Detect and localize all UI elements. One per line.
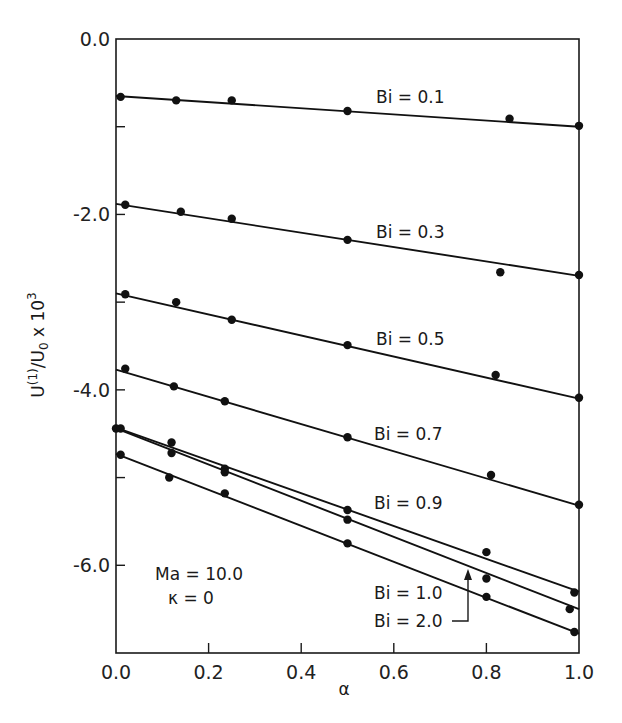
data-point	[228, 96, 236, 104]
data-point	[570, 628, 578, 636]
svg-text:U(1)/U0 x 103: U(1)/U0 x 103	[25, 292, 51, 397]
series-0-5	[116, 290, 583, 402]
y-label-sub: 0	[37, 342, 51, 350]
x-tick-label: 0.6	[379, 661, 409, 683]
data-point	[167, 438, 175, 446]
data-series	[112, 93, 583, 636]
data-point	[482, 593, 490, 601]
data-point	[575, 122, 583, 130]
series-label: Bi = 0.7	[374, 424, 442, 444]
data-point	[116, 424, 124, 432]
data-point	[170, 382, 178, 390]
data-point	[505, 115, 513, 123]
data-point	[482, 574, 490, 582]
data-point	[172, 96, 180, 104]
data-point	[482, 548, 490, 556]
y-label-sup: (1)	[26, 368, 40, 385]
series-label: Bi = 0.3	[376, 222, 444, 242]
data-point	[575, 271, 583, 279]
data-point	[228, 315, 236, 323]
y-tick-label: -6.0	[73, 554, 110, 576]
data-point	[491, 371, 499, 379]
series-0-1	[116, 93, 583, 130]
y-label-exp: 3	[25, 292, 39, 300]
x-tick-label: 0.0	[101, 661, 131, 683]
data-point	[167, 449, 175, 457]
data-point	[121, 290, 129, 298]
data-point	[165, 473, 173, 481]
y-tick-label: -2.0	[73, 203, 110, 225]
y-label-main: U	[28, 385, 48, 397]
annotation-ma: Ma = 10.0	[155, 564, 243, 584]
series-label: Bi = 0.1	[376, 87, 444, 107]
data-point	[121, 201, 129, 209]
series-labels: Bi = 0.1Bi = 0.3Bi = 0.5Bi = 0.7Bi = 0.9…	[374, 87, 444, 631]
y-label-mid: /U	[28, 350, 48, 368]
x-tick-label: 0.8	[471, 661, 501, 683]
x-axis-title: α	[338, 679, 349, 699]
data-point	[343, 506, 351, 514]
y-axis-title: U(1)/U0 x 103	[25, 292, 51, 397]
annotation-kappa: κ = 0	[168, 588, 214, 608]
data-point	[566, 605, 574, 613]
data-point	[221, 468, 229, 476]
series-0-7	[116, 365, 583, 509]
series-label: Bi = 1.0	[374, 583, 442, 603]
data-point	[343, 107, 351, 115]
data-point	[228, 215, 236, 223]
data-point	[221, 397, 229, 405]
series-0-3	[116, 201, 583, 280]
x-tick-label: 1.0	[564, 661, 594, 683]
chart: 0.00.20.40.60.81.00.0-2.0-4.0-6.0 Bi = 0…	[0, 0, 622, 723]
data-point	[575, 394, 583, 402]
series-label: Bi = 2.0	[374, 611, 442, 631]
data-point	[116, 93, 124, 101]
data-point	[172, 298, 180, 306]
data-point	[570, 588, 578, 596]
y-label-tail: x 10	[28, 300, 48, 343]
data-point	[177, 208, 185, 216]
data-point	[575, 501, 583, 509]
data-point	[343, 433, 351, 441]
data-point	[343, 539, 351, 547]
y-tick-label: -4.0	[73, 379, 110, 401]
data-point	[487, 471, 495, 479]
y-tick-label: 0.0	[80, 28, 110, 50]
x-tick-label: 0.4	[286, 661, 316, 683]
data-point	[221, 489, 229, 497]
data-point	[343, 341, 351, 349]
x-tick-label: 0.2	[193, 661, 223, 683]
series-1-0	[116, 451, 579, 637]
series-label: Bi = 0.9	[374, 493, 442, 513]
data-point	[343, 236, 351, 244]
data-point	[343, 515, 351, 523]
data-point	[496, 268, 504, 276]
data-point	[116, 451, 124, 459]
data-point	[121, 365, 129, 373]
arrowhead-icon	[464, 569, 472, 580]
series-label: Bi = 0.5	[376, 329, 444, 349]
